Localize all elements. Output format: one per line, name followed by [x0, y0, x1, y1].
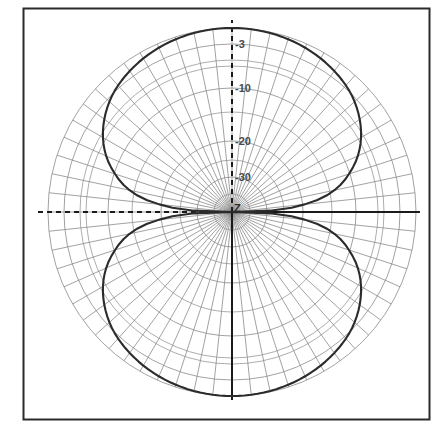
center-axis-label: Z — [234, 202, 241, 214]
ring-label-minus10: -10 — [235, 82, 251, 94]
polar-plot-figure: -3-10-20-30 Z — [0, 0, 440, 434]
ring-label-minus20: -20 — [235, 135, 251, 147]
ring-label-minus30: -30 — [235, 171, 251, 183]
polar-chart-svg: -3-10-20-30 Z — [0, 0, 440, 434]
ring-label-minus3: -3 — [235, 38, 245, 50]
